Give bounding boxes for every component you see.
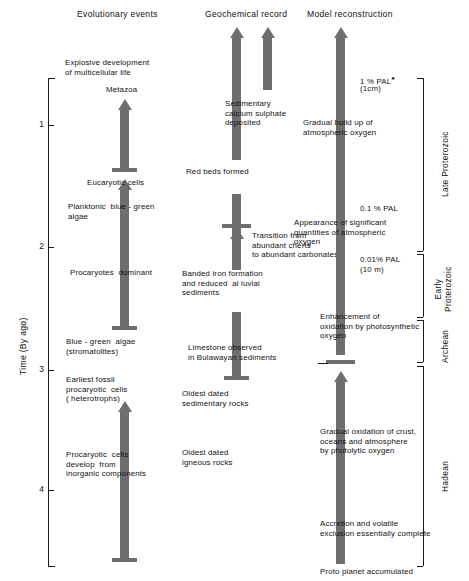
- label-blue-green-algae-stromatolites: Blue - green algae (stromatolites): [66, 337, 136, 356]
- era-label-early-proterozoic-line1: Early: [433, 279, 443, 300]
- label-proto-planet-accumulated: Proto planet accumulated: [320, 567, 413, 577]
- era-label-late-proterozoic: Late Proterozoic: [440, 131, 450, 197]
- arrow-head-atmospheric-oxygen: [334, 27, 348, 38]
- time-axis-tick-3: [48, 370, 54, 371]
- label-explosive-development: Explosive development of multicellular l…: [65, 58, 149, 77]
- label-pal-0-1-percent: 0.1 % PAL: [360, 204, 398, 214]
- label-gradual-oxidation-crust: Gradual oxidation of crust, oceans and a…: [320, 427, 416, 456]
- time-axis-top-cap: [48, 78, 55, 79]
- arrow-head-gradual-oxidation: [334, 371, 348, 382]
- time-axis-tick-1: [48, 125, 54, 126]
- arrow-shaft-metazoa: [120, 110, 129, 170]
- label-earliest-fossil-procaryotic-cells: Earliest fossil procaryotic cells ( hete…: [66, 375, 127, 404]
- pal-footnote-marker: ●: [391, 75, 395, 81]
- era-bracket-cap-bottom-archean: [417, 362, 423, 363]
- arrow-cross-transition: [222, 224, 251, 228]
- label-accretion-volatile-exclusion: Accretion and volatile exclusion essenti…: [320, 519, 431, 538]
- label-oldest-dated-sedimentary-rocks: Oldest dated sedimentary rocks: [182, 389, 249, 408]
- arrow-shaft-atmospheric-oxygen: [336, 38, 345, 355]
- arrow-shaft-procaryotic-cells: [120, 412, 129, 560]
- limestone-connector-dash: [318, 363, 328, 364]
- era-bracket-cap-top-late-proterozoic: [417, 78, 423, 79]
- label-pal-1-percent-sub: (1cm): [360, 84, 381, 94]
- label-procaryotic-cells-develop: Procaryotic cells develop from inorganic…: [66, 450, 146, 479]
- label-banded-iron-formation: Banded iron formation and reduced al luv…: [182, 269, 263, 298]
- era-bracket-line-hadean: [423, 366, 424, 566]
- era-label-early-proterozoic-line2: Proterozoic: [443, 266, 453, 312]
- era-bracket-cap-top-hadean: [417, 366, 423, 367]
- label-sedimentary-calcium-sulphate: Sedimentary calcium sulphate deposited: [225, 99, 286, 128]
- time-axis-tick-label-2: 2: [32, 241, 44, 251]
- era-label-hadean: Hadean: [440, 461, 450, 492]
- time-axis-bottom-cap: [48, 566, 55, 567]
- era-bracket-cap-top-archean: [417, 320, 423, 321]
- time-axis-tick-label-4: 4: [32, 484, 44, 494]
- era-bracket-line-late-proterozoic: [423, 78, 424, 251]
- column-header-model-reconstruction: Model reconstruction: [307, 9, 393, 19]
- time-axis-line: [48, 78, 49, 567]
- arrow-head-banded-iron: [230, 228, 244, 239]
- arrow-head-red-beds: [230, 27, 244, 38]
- label-limestone-bulawayan: Limestone observed in Bulawayan sediment…: [188, 343, 276, 362]
- arrow-shaft-calcium-sulphate: [263, 38, 272, 90]
- arrow-foot-limestone: [224, 376, 249, 380]
- era-label-early-proterozoic: EarlyProterozoic: [434, 266, 453, 312]
- time-axis-tick-label-3: 3: [32, 364, 44, 374]
- era-bracket-cap-bottom-hadean: [417, 566, 423, 567]
- time-axis-title: Time (By ago): [18, 317, 28, 375]
- label-appearance-significant-oxygen: Appearance of significant quantities of …: [294, 218, 386, 247]
- time-axis-tick-4: [48, 490, 54, 491]
- arrow-cross-archean-boundary: [326, 360, 355, 364]
- arrow-head-metazoa: [118, 99, 132, 110]
- era-bracket-cap-top-early-proterozoic: [417, 254, 423, 255]
- column-header-geochemical-record: Geochemical record: [205, 9, 287, 19]
- label-eucaryotic-cells: Eucaryotic cells: [87, 178, 144, 188]
- arrow-head-calcium-sulphate: [261, 27, 275, 38]
- label-planktonic-blue-green-algae: Planktonic blue - green algae: [68, 202, 155, 221]
- label-oldest-dated-igneous-rocks: Oldest dated igneous rocks: [182, 448, 233, 467]
- arrow-foot-procaryotic-cells: [112, 558, 137, 562]
- time-axis-tick-2: [48, 247, 54, 248]
- geological-timeline-figure: Evolutionary events Geochemical record M…: [0, 0, 469, 581]
- time-axis-tick-label-1: 1: [32, 119, 44, 129]
- era-bracket-line-archean: [423, 320, 424, 362]
- arrow-foot-eucaryotic-cells: [112, 326, 137, 330]
- arrow-foot-metazoa: [112, 168, 137, 172]
- label-pal-0-01-percent: 0.01% PAL: [360, 255, 400, 265]
- label-procaryotes-dominant: Procaryotes dominant: [70, 268, 152, 278]
- era-bracket-line-early-proterozoic: [423, 254, 424, 317]
- column-header-evolutionary-events: Evolutionary events: [77, 9, 158, 19]
- label-metazoa: Metazoa: [106, 85, 137, 95]
- era-bracket-cap-bottom-early-proterozoic: [417, 317, 423, 318]
- label-pal-0-01-percent-sub: (10 m): [360, 265, 384, 275]
- era-label-archean: Archean: [440, 330, 450, 363]
- label-enhancement-oxidation: Enhancement of oxidation by photosynthet…: [320, 312, 419, 341]
- label-gradual-build-up-oxygen: Gradual build up of atmospheric oxygen: [303, 118, 376, 137]
- era-bracket-cap-bottom-late-proterozoic: [417, 251, 423, 252]
- label-red-beds-formed: Red beds formed: [186, 167, 249, 177]
